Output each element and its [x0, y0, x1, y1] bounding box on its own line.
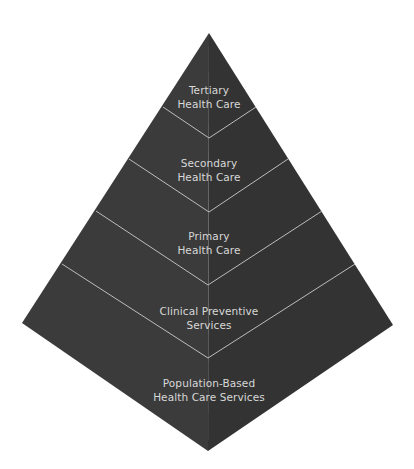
- tier-label-line2: Health Care: [177, 244, 240, 256]
- health-care-pyramid: Tertiary Health Care Secondary Health Ca…: [0, 0, 414, 469]
- tier-label-line1: Tertiary: [188, 84, 229, 96]
- tier-label-line2: Health Care: [177, 171, 240, 183]
- tier-label-line1: Primary: [188, 230, 229, 242]
- tier-label-line2: Services: [186, 319, 231, 331]
- tier-label-line1: Secondary: [181, 157, 238, 169]
- tier-label-line1: Population-Based: [163, 377, 255, 389]
- tier-label-line2: Health Care Services: [153, 391, 265, 403]
- tier-label-line2: Health Care: [177, 98, 240, 110]
- tier-label-line1: Clinical Preventive: [160, 305, 259, 317]
